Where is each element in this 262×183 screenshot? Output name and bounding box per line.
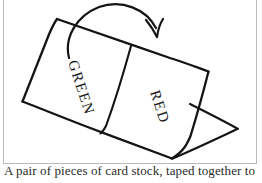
- caption-region: A pair of pieces of card stock, taped to…: [0, 165, 262, 183]
- figure-caption: A pair of pieces of card stock, taped to…: [4, 165, 262, 178]
- fold-direction-arrow-head: [146, 19, 163, 37]
- folded-card-sketch: GREEN RED: [0, 0, 262, 170]
- page-root: GREEN RED A pair of pieces of card stock…: [0, 0, 262, 183]
